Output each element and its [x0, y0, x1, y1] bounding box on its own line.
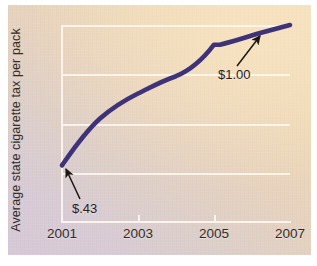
x-tick-label: 2005 [199, 226, 229, 241]
x-tick-label: 2001 [47, 226, 77, 241]
chart-figure: Average state cigarette tax per pack $1.… [8, 5, 311, 255]
x-axis-tick-labels: 2001 2003 2005 2007 [62, 5, 290, 255]
x-tick-label: 2003 [123, 226, 153, 241]
x-tick-label: 2007 [275, 226, 305, 241]
